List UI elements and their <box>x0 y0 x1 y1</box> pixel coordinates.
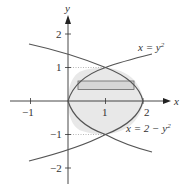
region-diagram: y x −1 1 2 2 1 −1 −2 x = y2 x = 2 − y2 <box>0 0 190 192</box>
y-tick-label-neg2: −2 <box>50 162 62 174</box>
x-tick-label-1: 1 <box>102 106 108 118</box>
x-axis-label: x <box>173 95 179 107</box>
y-tick-label-2: 2 <box>56 28 62 40</box>
representative-strip <box>78 81 134 90</box>
y-tick-label-1: 1 <box>56 61 62 73</box>
y-tick-label-neg1: −1 <box>50 128 62 140</box>
x-tick-label-2: 2 <box>144 106 150 118</box>
curve-label-left: x = 2 − y2 <box>125 122 171 134</box>
x-tick-label-neg1: −1 <box>22 106 34 118</box>
y-axis-arrow-icon <box>65 15 71 24</box>
x-axis-arrow-icon <box>163 98 171 104</box>
y-axis-label: y <box>64 2 70 14</box>
curve-label-right: x = y2 <box>137 41 165 53</box>
